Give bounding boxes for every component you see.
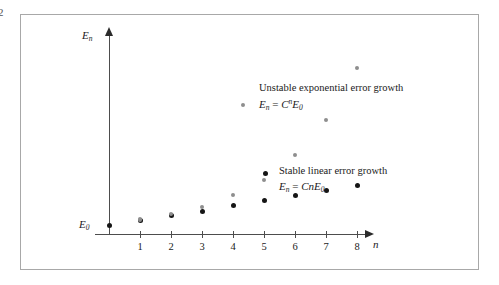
legend-marker-stable-icon: [263, 171, 268, 176]
x-axis-tick-label: 7: [316, 241, 336, 252]
data-point-unstable: [262, 178, 266, 182]
data-point-unstable: [324, 118, 328, 122]
origin-error-label: E0: [79, 218, 89, 230]
x-axis-arrowhead-icon: [365, 230, 374, 238]
data-point-stable: [262, 198, 267, 203]
x-axis-tick: [295, 231, 296, 238]
data-point-stable: [200, 209, 205, 214]
data-point-stable: [355, 183, 360, 188]
data-point-unstable: [138, 217, 142, 221]
data-point-stable: [107, 223, 112, 228]
y-axis-line: [109, 35, 110, 235]
x-axis-tick: [357, 231, 358, 238]
data-point-unstable: [293, 153, 297, 157]
legend-stable-formula: En = CnE0: [279, 180, 325, 192]
x-axis-tick-label: 5: [254, 241, 274, 252]
legend-marker-unstable-icon: [241, 103, 245, 107]
x-axis-tick-label: 8: [347, 241, 367, 252]
x-axis-tick-label: 1: [130, 241, 150, 252]
x-axis-tick-label: 4: [223, 241, 243, 252]
x-axis-tick-label: 3: [192, 241, 212, 252]
figure-page: 2 En n E0 12345678 Unstable exponential …: [0, 0, 499, 285]
x-axis-tick: [264, 231, 265, 238]
plot-area: En n E0 12345678 Unstable exponential er…: [21, 15, 480, 271]
legend-unstable-title: Unstable exponential error growth: [259, 82, 403, 93]
data-point-stable: [231, 203, 236, 208]
x-axis-tick: [140, 231, 141, 238]
x-axis-label: n: [373, 238, 379, 250]
data-point-stable: [293, 193, 298, 198]
x-axis-tick: [202, 231, 203, 238]
legend-stable-title: Stable linear error growth: [279, 165, 387, 176]
data-point-unstable: [231, 193, 235, 197]
y-axis-arrowhead-icon: [105, 27, 113, 36]
x-axis-tick: [171, 231, 172, 238]
legend-unstable-formula: En = CnE0: [259, 98, 303, 110]
y-axis-label: En: [82, 29, 92, 41]
data-point-unstable: [355, 66, 359, 70]
figure-frame: En n E0 12345678 Unstable exponential er…: [20, 14, 479, 270]
x-axis-tick: [326, 231, 327, 238]
x-axis-tick-label: 2: [161, 241, 181, 252]
x-axis-tick: [233, 231, 234, 238]
page-corner-mark: 2: [0, 6, 4, 18]
x-axis-tick-label: 6: [285, 241, 305, 252]
